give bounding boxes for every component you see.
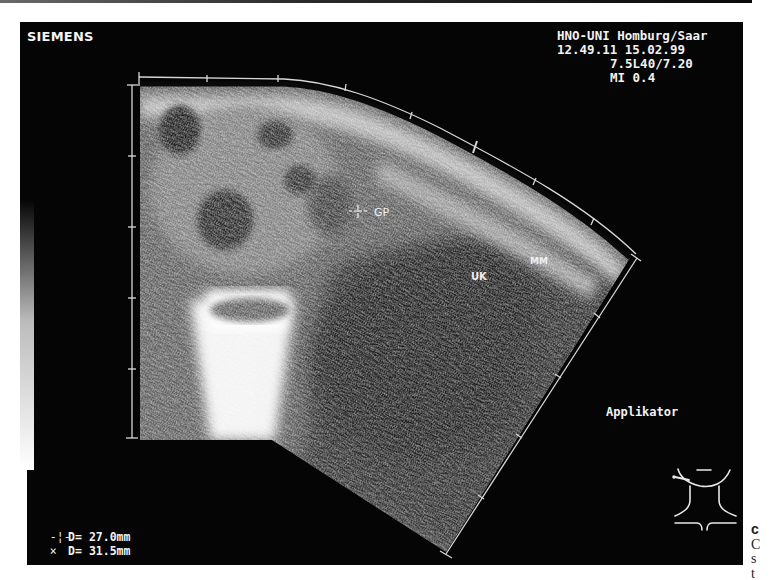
caption-fragment: c C s t bbox=[751, 522, 760, 580]
caption-line-1: c bbox=[751, 521, 759, 537]
annotation-uk: UK bbox=[471, 271, 487, 282]
mechanical-index-label: MI 0.4 bbox=[610, 71, 655, 85]
measurement-row-2: × D= 31.5mm bbox=[36, 532, 130, 560]
annotation-mm: MM bbox=[530, 256, 548, 266]
applicator-label: Applikator bbox=[606, 405, 678, 419]
scanner-brand-logo: SIEMENS bbox=[27, 29, 94, 44]
transducer-label: 7.5L40/7.20 bbox=[610, 57, 693, 71]
caption-line-3: s bbox=[751, 551, 756, 566]
datetime-label: 12.49.11 15.02.99 bbox=[557, 43, 685, 57]
scan-sector bbox=[130, 80, 652, 561]
applicator-neck-icon bbox=[673, 469, 736, 530]
annotation-gp: GP bbox=[374, 206, 389, 219]
caption-line-2: C bbox=[751, 537, 760, 552]
ultrasound-scan bbox=[0, 0, 774, 580]
depth-scale-left bbox=[126, 85, 140, 438]
x-cursor-icon: × bbox=[50, 545, 64, 558]
measurement-2-value: 31.5mm bbox=[89, 544, 131, 558]
caption-line-4: t bbox=[751, 566, 755, 580]
institution-label: HNO-UNI Homburg/Saar bbox=[557, 29, 708, 43]
measurement-2-label: D= bbox=[68, 544, 82, 558]
